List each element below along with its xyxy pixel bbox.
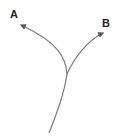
label-a: A xyxy=(10,9,18,20)
stem-line xyxy=(49,74,67,133)
branch-a-arrow xyxy=(21,25,67,74)
label-b: B xyxy=(102,18,110,29)
branch-diagram xyxy=(0,0,113,140)
branch-b-arrow xyxy=(67,33,103,74)
